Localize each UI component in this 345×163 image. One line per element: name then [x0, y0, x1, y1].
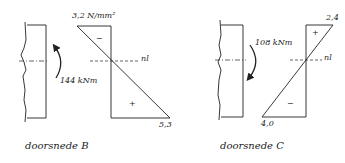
moment-label-b: 144 kNm [60, 76, 97, 85]
section-b-cross-section [19, 22, 49, 122]
moment-label-c: 108 kNm [255, 38, 292, 47]
caption-c: doorsnede C [220, 140, 284, 151]
neutral-axis-label-c: nl [324, 53, 332, 62]
stress-bottom-sign-c: − [287, 99, 294, 108]
moment-arrow-icon-b [55, 47, 61, 78]
stress-bottom-label-c: 4,0 [261, 119, 274, 128]
stress-bottom-label-b: 5,3 [159, 120, 172, 129]
diagram-canvas [0, 0, 345, 163]
stress-top-label-b: 3,2 N/mm² [72, 11, 115, 20]
neutral-axis-label-b: nl [141, 54, 149, 63]
section-c-cross-section [215, 20, 246, 120]
caption-b: doorsnede B [25, 140, 89, 151]
stress-bottom-sign-b: + [129, 99, 136, 108]
stress-diagram-b [77, 26, 170, 118]
stress-top-sign-c: + [312, 28, 319, 37]
moment-arrow-icon-c [249, 45, 256, 78]
stress-top-label-c: 2,4 [326, 13, 339, 22]
stress-top-sign-b: − [96, 34, 103, 43]
